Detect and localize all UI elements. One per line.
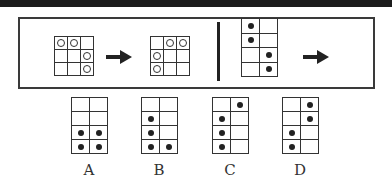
grid-cell [164,50,177,63]
grid-cell [260,48,278,63]
dot-icon [289,144,295,150]
circle-icon [70,39,78,47]
dot-icon [266,66,272,72]
example-after-grid [150,36,190,76]
grid-cell [231,126,249,140]
dot-icon [78,130,84,136]
grid-cell [260,63,278,78]
grid-cell [283,98,301,112]
grid-cell [164,37,177,50]
grid-cell [301,140,319,154]
grid-cell [160,140,178,154]
circle-icon [166,39,174,47]
question-grid [241,18,278,77]
circle-icon [153,65,161,73]
grid-cell [283,126,301,140]
grid-cell [151,63,164,76]
grid-cell [283,112,301,126]
dot-icon [148,130,154,136]
dot-icon [78,144,84,150]
grid-cell [81,63,94,76]
circle-icon [57,39,65,47]
grid-cell [160,126,178,140]
option-b-label[interactable]: B [149,161,169,179]
circle-icon [179,39,187,47]
dot-icon [219,130,225,136]
grid-cell [301,112,319,126]
dot-icon [248,37,254,43]
dot-icon [96,144,102,150]
grid-cell [55,50,68,63]
option-d-label[interactable]: D [290,161,310,179]
grid-cell [160,98,178,112]
circle-icon [83,52,91,60]
grid-cell [231,98,249,112]
dot-icon [307,102,313,108]
grid-cell [90,140,108,154]
grid-cell [164,63,177,76]
grid-cell [283,140,301,154]
grid-cell [68,50,81,63]
circle-icon [83,65,91,73]
grid-cell [142,98,160,112]
grid-cell [55,63,68,76]
dot-icon [219,144,225,150]
option-d-grid[interactable] [282,97,319,154]
grid-cell [81,37,94,50]
grid-cell [242,48,260,63]
grid-cell [177,37,190,50]
grid-cell [68,63,81,76]
grid-cell [231,112,249,126]
circle-icon [153,52,161,60]
grid-cell [213,98,231,112]
dot-icon [96,130,102,136]
grid-cell [213,126,231,140]
grid-cell [72,126,90,140]
grid-cell [72,140,90,154]
option-a-label[interactable]: A [79,161,99,179]
grid-cell [231,140,249,154]
dot-icon [248,23,254,29]
grid-cell [213,112,231,126]
top-band [0,0,392,7]
grid-cell [151,37,164,50]
grid-cell [151,50,164,63]
right-arrow-icon [303,50,329,64]
divider-bar [217,22,220,81]
right-arrow-icon [106,50,132,64]
option-b-grid[interactable] [141,97,178,154]
grid-cell [72,98,90,112]
grid-cell [72,112,90,126]
example-before-grid [54,36,94,76]
grid-cell [242,63,260,78]
dot-icon [148,116,154,122]
grid-cell [90,112,108,126]
grid-cell [142,112,160,126]
dot-icon [166,144,172,150]
grid-cell [68,37,81,50]
grid-cell [160,112,178,126]
grid-cell [242,19,260,34]
dot-icon [266,52,272,58]
grid-cell [301,98,319,112]
dot-icon [237,102,243,108]
grid-cell [177,63,190,76]
grid-cell [260,34,278,49]
option-c-grid[interactable] [212,97,249,154]
dot-icon [289,130,295,136]
grid-cell [90,126,108,140]
grid-cell [142,140,160,154]
grid-cell [301,126,319,140]
grid-cell [142,126,160,140]
grid-cell [260,19,278,34]
grid-cell [81,50,94,63]
dot-icon [307,116,313,122]
dot-icon [219,116,225,122]
grid-cell [55,37,68,50]
dot-icon [148,144,154,150]
grid-cell [90,98,108,112]
option-c-label[interactable]: C [220,161,240,179]
grid-cell [177,50,190,63]
option-a-grid[interactable] [71,97,108,154]
grid-cell [213,140,231,154]
